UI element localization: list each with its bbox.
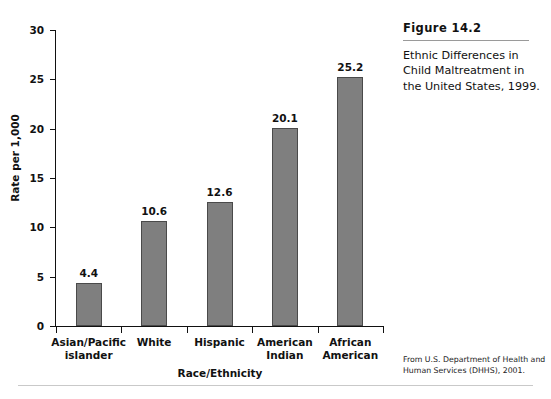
bar-value-label: 10.6 xyxy=(124,206,184,217)
y-axis-tick-label: 15 xyxy=(0,173,44,184)
x-axis-tick xyxy=(318,327,319,333)
y-axis-title: Rate per 1,000 xyxy=(9,98,21,218)
source-note: From U.S. Department of Health and Human… xyxy=(403,355,549,376)
y-axis-tick-label: 5 xyxy=(0,272,44,283)
x-axis-category-label: AfricanAmerican xyxy=(300,336,400,361)
caption-text: Ethnic Differences in Child Maltreatment… xyxy=(403,48,543,95)
category-label-line: islander xyxy=(39,349,139,362)
bar xyxy=(141,221,167,326)
x-axis-tick xyxy=(252,327,253,333)
x-axis-tick xyxy=(187,327,188,333)
bar xyxy=(337,77,363,326)
x-axis-tick xyxy=(383,327,384,333)
bar xyxy=(207,202,233,326)
page-divider xyxy=(18,385,533,386)
x-axis-line xyxy=(56,326,384,327)
figure-number: Figure 14.2 xyxy=(403,22,543,36)
bar-value-label: 25.2 xyxy=(320,62,380,73)
caption-divider xyxy=(403,40,529,41)
x-axis-title: Race/Ethnicity xyxy=(56,367,384,379)
y-axis-tick-label: 25 xyxy=(0,74,44,85)
y-axis-tick-label: 10 xyxy=(0,222,44,233)
bar xyxy=(76,283,102,326)
figure-caption: Figure 14.2 Ethnic Differences in Child … xyxy=(403,22,543,94)
y-axis-tick-label: 30 xyxy=(0,25,44,36)
category-label-line: American xyxy=(300,349,400,362)
figure-panel: 051015202530 4.410.612.620.125.2 Asian/P… xyxy=(0,0,392,392)
plot-area xyxy=(56,30,383,326)
category-label-line: African xyxy=(300,336,400,349)
y-axis-tick-label: 20 xyxy=(0,124,44,135)
y-axis-tick-label: 0 xyxy=(0,321,44,332)
bar-value-label: 4.4 xyxy=(59,268,119,279)
bar xyxy=(272,128,298,326)
x-axis-tick xyxy=(56,327,57,333)
x-axis-tick xyxy=(121,327,122,333)
bar-value-label: 12.6 xyxy=(190,187,250,198)
bar-value-label: 20.1 xyxy=(255,113,315,124)
